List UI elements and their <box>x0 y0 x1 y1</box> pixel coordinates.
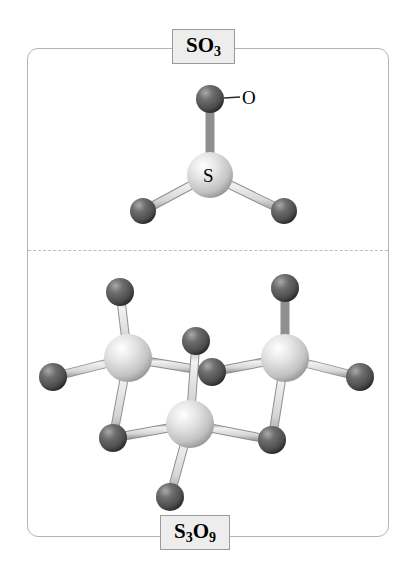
atom-label-oxygen: O <box>242 88 256 107</box>
so3-formula-subscript: 3 <box>214 44 221 59</box>
diagram-panel-border <box>27 48 389 537</box>
structure-label-s3o9: S3O9 <box>160 515 230 550</box>
so3-formula-main: SO <box>186 33 214 57</box>
panel-divider <box>28 250 388 251</box>
structure-label-so3: SO3 <box>172 29 235 64</box>
s3o9-oxygen-symbol: O <box>193 519 209 543</box>
s3o9-oxygen-subscript: 9 <box>209 530 216 545</box>
figure-root: S O SO3 S3O9 <box>0 0 416 586</box>
s3o9-sulfur-symbol: S <box>174 519 186 543</box>
atom-label-sulfur: S <box>203 166 214 185</box>
s3o9-sulfur-subscript: 3 <box>186 530 193 545</box>
